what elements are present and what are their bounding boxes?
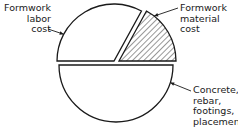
pie-slice-concrete [59, 65, 173, 122]
slice-label-formwork-material: Formwork material cost [180, 3, 227, 35]
formwork-material-arrowhead-icon [154, 13, 158, 16]
slice-label-formwork-labor: Formwork labor cost [3, 3, 51, 35]
slice-label-concrete: Concrete, rebar, footings, placement [193, 85, 238, 127]
formwork-labor-arrowhead-icon [59, 31, 63, 34]
